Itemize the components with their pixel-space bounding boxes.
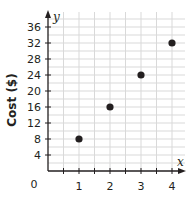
origin-label: 0 [31, 178, 38, 191]
y-axis-variable: y [52, 10, 60, 24]
x-tick-label: 3 [138, 180, 145, 193]
y-tick-label: 24 [27, 69, 41, 82]
data-point [106, 103, 113, 110]
data-point [168, 39, 175, 46]
x-tick-label: 2 [107, 180, 114, 193]
y-tick-label: 12 [27, 117, 41, 130]
y-tick-label: 32 [27, 37, 41, 50]
x-tick-label: 1 [76, 180, 83, 193]
y-axis-arrow-icon [45, 10, 51, 18]
x-axis-variable: x [177, 155, 184, 169]
data-point [75, 135, 82, 142]
data-point [137, 71, 144, 78]
y-tick-label: 20 [27, 85, 41, 98]
y-tick-label: 16 [27, 101, 41, 114]
y-tick-label: 36 [27, 21, 41, 34]
grid-lines [48, 12, 185, 171]
y-tick-label: 8 [34, 133, 41, 146]
y-axis-title: Cost ($) [5, 73, 19, 126]
y-tick-label: 4 [34, 149, 41, 162]
scatter-chart: 12344812162024283236 Cost ($) y x 0 [0, 0, 186, 199]
y-tick-label: 28 [27, 53, 41, 66]
x-tick-label: 4 [169, 180, 176, 193]
